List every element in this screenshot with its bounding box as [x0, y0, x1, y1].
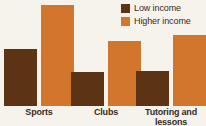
bar-wrap-tutoring-low: 20% [136, 0, 169, 106]
bar-wrap-sports-higher: 57% [41, 0, 74, 106]
category-label-tutoring: Tutoring and lessons [136, 107, 206, 126]
bar-wrap-sports-low: 32% [4, 0, 37, 106]
category-label-tutoring-line2: lessons [136, 117, 206, 126]
bar-clubs-low-income [71, 72, 104, 106]
bar-wrap-tutoring-higher: 40% [173, 0, 206, 106]
bar-tutoring-higher-income [173, 35, 206, 106]
bar-group-clubs: 19% 37% Clubs [71, 0, 141, 106]
bar-chart: Low income Higher income 32% 57% Sports [0, 0, 206, 126]
bar-group-tutoring: 20% 40% Tutoring and lessons [136, 0, 206, 106]
category-label-clubs: Clubs [71, 107, 141, 117]
bar-sports-higher-income [41, 5, 74, 106]
bar-sports-low-income [4, 49, 37, 106]
bar-group-sports: 32% 57% Sports [4, 0, 74, 106]
bar-tutoring-low-income [136, 71, 169, 106]
category-label-sports: Sports [4, 107, 74, 117]
plot-area: 32% 57% Sports 19% 37% [0, 0, 206, 126]
bar-wrap-clubs-low: 19% [71, 0, 104, 106]
